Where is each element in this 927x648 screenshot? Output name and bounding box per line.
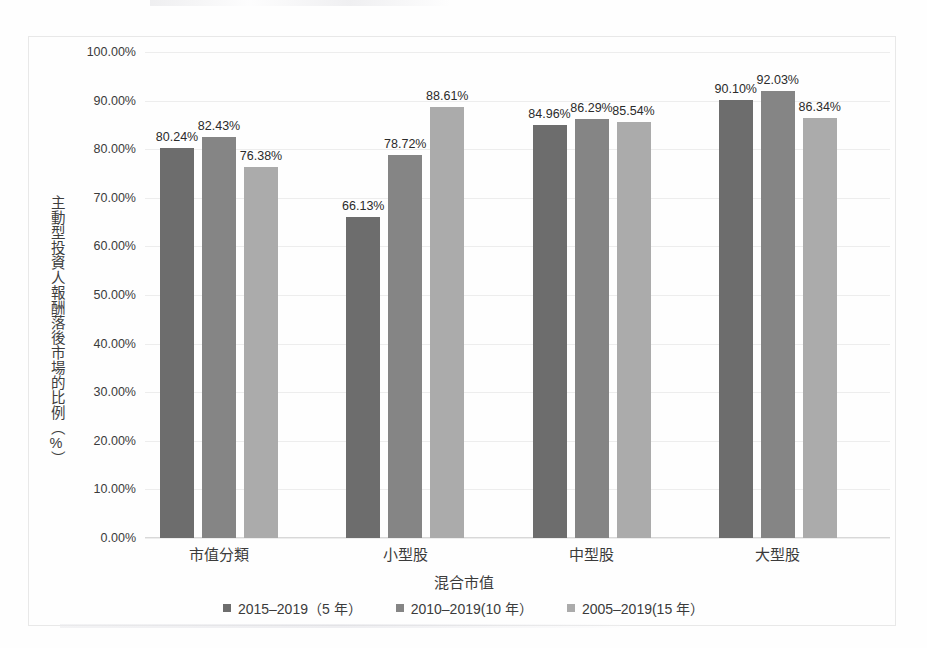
x-axis-category-label: 中型股 — [569, 543, 614, 564]
legend-item-label: 2015–2019（5 年） — [238, 598, 362, 618]
y-axis-tick-label: 50.00% — [36, 288, 136, 302]
legend-item[interactable]: 2010–2019(10 年） — [396, 598, 533, 618]
legend-swatch-icon — [567, 604, 575, 612]
gridline — [145, 538, 890, 539]
y-axis-tick-label: 100.00% — [36, 45, 136, 59]
bar[interactable] — [160, 148, 194, 538]
bar[interactable] — [803, 118, 837, 538]
legend-item[interactable]: 2015–2019（5 年） — [223, 598, 362, 618]
bar-value-label: 88.61% — [426, 89, 468, 103]
y-axis-ticks: 0.00%10.00%20.00%30.00%40.00%50.00%60.00… — [32, 52, 136, 538]
bar-value-label: 66.13% — [342, 199, 384, 213]
bar-value-label: 86.29% — [570, 101, 612, 115]
y-axis-tick-label: 90.00% — [36, 94, 136, 108]
scan-artifact-top — [150, 0, 450, 6]
gridline — [145, 52, 890, 53]
legend-item-label: 2005–2019(15 年） — [582, 598, 704, 618]
bar[interactable] — [430, 107, 464, 538]
y-axis-tick-label: 80.00% — [36, 142, 136, 156]
bar-value-label: 85.54% — [612, 104, 654, 118]
y-axis-tick-label: 10.00% — [36, 482, 136, 496]
x-axis-label: 混合市值 — [0, 571, 927, 592]
x-axis-category-labels: 市值分類小型股中型股大型股 — [145, 543, 890, 567]
bar-value-label: 84.96% — [528, 107, 570, 121]
bar[interactable] — [244, 167, 278, 538]
bar[interactable] — [617, 122, 651, 538]
bar[interactable] — [575, 119, 609, 538]
y-axis-tick-label: 40.00% — [36, 337, 136, 351]
y-axis-tick-label: 0.00% — [36, 531, 136, 545]
y-axis-tick-label: 60.00% — [36, 239, 136, 253]
bar[interactable] — [388, 155, 422, 538]
bar-value-label: 80.24% — [156, 130, 198, 144]
bar[interactable] — [761, 91, 795, 538]
bar-value-label: 76.38% — [240, 149, 282, 163]
bar[interactable] — [346, 217, 380, 538]
x-axis-category-label: 市值分類 — [189, 543, 249, 564]
x-axis-category-label: 大型股 — [755, 543, 800, 564]
bar-value-label: 92.03% — [757, 73, 799, 87]
y-axis-tick-label: 30.00% — [36, 385, 136, 399]
legend-swatch-icon — [223, 604, 231, 612]
chart-legend: 2015–2019（5 年）2010–2019(10 年）2005–2019(1… — [0, 598, 927, 618]
plot-area: 80.24%82.43%76.38%66.13%78.72%88.61%84.9… — [145, 52, 890, 538]
chart-page: 主動型投資人報酬落後市場的比例（%） 0.00%10.00%20.00%30.0… — [0, 0, 927, 648]
legend-item-label: 2010–2019(10 年） — [411, 598, 533, 618]
legend-item[interactable]: 2005–2019(15 年） — [567, 598, 704, 618]
bar[interactable] — [719, 100, 753, 538]
bar-value-label: 78.72% — [384, 137, 426, 151]
legend-swatch-icon — [396, 604, 404, 612]
y-axis-tick-label: 70.00% — [36, 191, 136, 205]
bar[interactable] — [533, 125, 567, 538]
scan-artifact-bottom — [60, 624, 620, 628]
x-axis-category-label: 小型股 — [383, 543, 428, 564]
bar-value-label: 86.34% — [799, 100, 841, 114]
bar-value-label: 90.10% — [715, 82, 757, 96]
y-axis-tick-label: 20.00% — [36, 434, 136, 448]
bar-value-label: 82.43% — [198, 119, 240, 133]
bar[interactable] — [202, 137, 236, 538]
